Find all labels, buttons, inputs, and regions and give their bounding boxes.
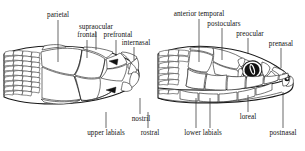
label-supraocular: supraocular: [79, 23, 113, 31]
label-nostril: nostril: [132, 115, 151, 123]
label-rostral: rostral: [141, 129, 160, 137]
label-upper-labials: upper labials: [87, 129, 125, 137]
label-anterior-temporal: anterior temporal: [174, 10, 225, 18]
label-preocular: preocular: [236, 30, 264, 38]
figure-canvas: .ol{fill:#ffffff;stroke:#1a1a1a;stroke-w…: [0, 0, 305, 151]
label-parietal: parietal: [47, 11, 69, 19]
label-postoculars: postoculars: [207, 20, 240, 28]
label-loreal: loreal: [240, 113, 257, 121]
label-postnasal: postnasal: [269, 129, 296, 137]
label-frontal: frontal: [77, 31, 97, 39]
scale-anterior-temporal-1: [188, 51, 213, 72]
neck-scales: [4, 51, 40, 97]
label-prefrontal: prefrontal: [104, 31, 133, 39]
dorsal-view: [4, 45, 139, 104]
label-internasal: internasal: [122, 39, 150, 47]
label-prenasal: prenasal: [269, 40, 293, 48]
label-lower-labials: lower labials: [184, 129, 222, 137]
lateral-view: [158, 46, 293, 103]
